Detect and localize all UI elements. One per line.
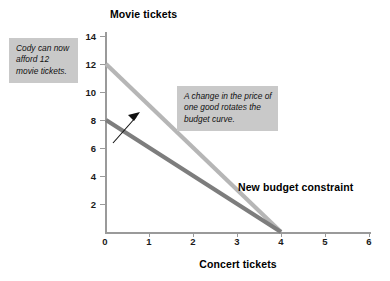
callout-price-change: A change in the price of one good rotate… bbox=[177, 86, 278, 131]
budget-constraint-chart: 14 12 10 8 6 4 2 0 1 2 3 4 5 6 Movie tic… bbox=[0, 0, 390, 281]
original-budget-constraint-line bbox=[106, 120, 281, 232]
callout-cody-afford: Cody can now afford 12 movie tickets. bbox=[9, 38, 78, 83]
new-budget-constraint-label: New budget constraint bbox=[238, 181, 353, 193]
